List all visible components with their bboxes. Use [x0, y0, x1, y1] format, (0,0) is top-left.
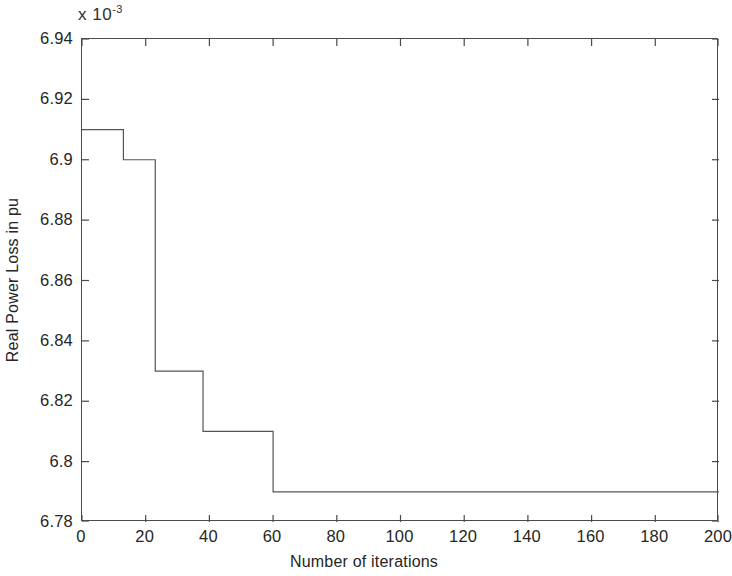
x-axis-tick-label: 100 — [385, 527, 413, 546]
x-axis-tick-label: 120 — [449, 527, 477, 546]
x-axis-tick-label: 200 — [704, 527, 732, 546]
x-axis-tick-labels: 020406080100120140160180200 — [0, 527, 728, 555]
x-axis-title: Number of iterations — [0, 553, 728, 571]
y-axis-tick-label: 6.82 — [40, 391, 73, 410]
x-axis-tick-label: 60 — [263, 527, 282, 546]
x-axis-tick-label: 180 — [640, 527, 668, 546]
y-axis-tick-label: 6.94 — [40, 29, 73, 48]
x-axis-tick-label: 160 — [577, 527, 605, 546]
y-axis-tick-label: 6.88 — [40, 210, 73, 229]
x-axis-tick-label: 0 — [76, 527, 85, 546]
y-axis-title-wrapper: Real Power Loss in pu — [0, 38, 26, 521]
y-axis-tick-label: 6.92 — [40, 89, 73, 108]
plot-svg — [82, 39, 719, 522]
axis-tick-marks — [82, 39, 719, 522]
y-axis-tick-label: 6.8 — [49, 451, 73, 470]
y-axis-multiplier-exponent: -3 — [112, 3, 123, 15]
x-axis-tick-label: 80 — [326, 527, 345, 546]
y-axis-multiplier-label: x 10-3 — [78, 3, 123, 25]
y-axis-tick-label: 6.9 — [49, 149, 73, 168]
x-axis-tick-label: 40 — [199, 527, 218, 546]
plot-area — [81, 38, 718, 521]
y-axis-multiplier-base: x 10 — [78, 5, 112, 24]
y-axis-tick-label: 6.84 — [40, 330, 73, 349]
x-axis-tick-label: 140 — [513, 527, 541, 546]
x-axis-tick-label: 20 — [135, 527, 154, 546]
data-series-line — [82, 130, 719, 492]
y-axis-title: Real Power Loss in pu — [4, 197, 22, 361]
y-axis-tick-label: 6.86 — [40, 270, 73, 289]
